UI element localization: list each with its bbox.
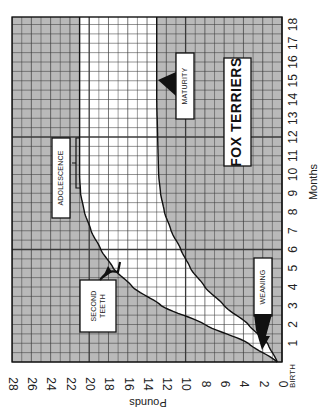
pounds-tick-label: 24 — [44, 377, 58, 391]
months-tick-label: 12 — [286, 130, 300, 144]
chart-title: FOX TERRIERS — [228, 57, 244, 166]
weaning-label: WEANING — [259, 270, 266, 305]
pounds-tick-label: 22 — [64, 377, 78, 391]
months-tick-label: 3 — [286, 302, 300, 309]
months-tick-label: 13 — [286, 111, 300, 125]
months-tick-label: 17 — [286, 36, 300, 50]
months-tick-label: 7 — [286, 227, 300, 234]
second-teeth-label-2: TEETH — [99, 294, 106, 318]
months-tick-label: 15 — [286, 74, 300, 88]
maturity-label: MATURITY — [181, 67, 188, 104]
pounds-tick-label: 14 — [141, 377, 155, 391]
months-tick-label: 1 — [286, 340, 300, 347]
pounds-tick-label: 18 — [102, 377, 116, 391]
second-teeth-label-1: SECOND — [90, 290, 97, 321]
months-tick-label: 8 — [286, 208, 300, 215]
pounds-tick-label: 16 — [122, 377, 136, 391]
pounds-tick-label: 28 — [6, 377, 20, 391]
months-tick-label: 11 — [286, 149, 300, 162]
pounds-tick-label: 20 — [83, 377, 97, 391]
pounds-tick-label: 26 — [25, 377, 39, 391]
pounds-tick-label: 10 — [179, 377, 193, 391]
pounds-tick-label: 12 — [160, 377, 174, 391]
pounds-tick-label: 2 — [257, 381, 271, 388]
months-tick-label: 5 — [286, 265, 300, 272]
growth-chart: 0246810121416182022242628PoundsBIRTH1234… — [0, 0, 324, 411]
months-tick-label: 14 — [286, 93, 300, 107]
months-tick-birth: BIRTH — [288, 364, 297, 388]
pounds-axis-title: Pounds — [129, 397, 167, 409]
months-tick-label: 16 — [286, 55, 300, 69]
months-axis-title: Months — [307, 163, 319, 200]
adolescence-label: ADOLESCENCE — [57, 150, 64, 205]
months-tick-label: 6 — [286, 246, 300, 253]
months-tick-label: 18 — [286, 18, 300, 32]
months-tick-label: 10 — [286, 168, 300, 182]
months-tick-label: 2 — [286, 321, 300, 328]
pounds-tick-label: 4 — [237, 381, 251, 388]
months-tick-label: 9 — [286, 190, 300, 197]
chart-svg: 0246810121416182022242628PoundsBIRTH1234… — [0, 0, 324, 411]
pounds-tick-label: 8 — [199, 381, 213, 388]
months-tick-label: 4 — [286, 283, 300, 290]
pounds-tick-label: 6 — [218, 381, 232, 388]
